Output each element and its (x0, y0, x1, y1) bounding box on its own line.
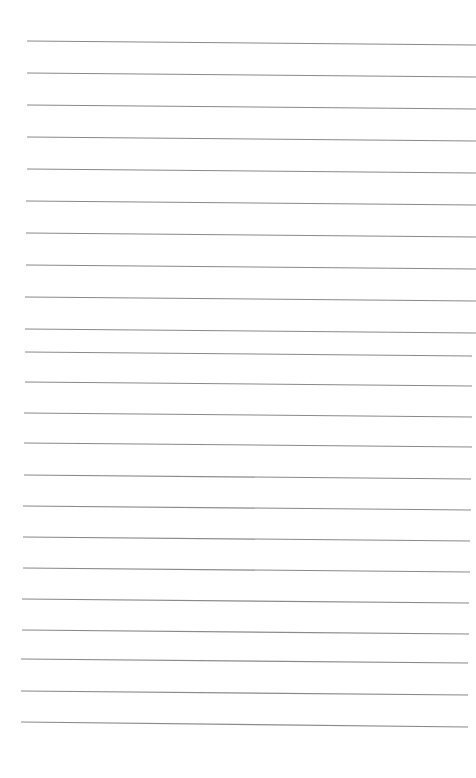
ruled-line (25, 352, 472, 356)
ruled-line (22, 630, 469, 634)
ruled-line (23, 568, 470, 572)
ruled-line (22, 599, 469, 603)
ruled-line (21, 691, 468, 695)
ruled-line (24, 443, 472, 447)
ruled-line (25, 329, 476, 333)
ruled-line (26, 201, 476, 205)
ruled-line (27, 137, 476, 141)
ruled-lines (0, 0, 476, 778)
ruled-line (24, 413, 472, 417)
ruled-line (27, 169, 476, 173)
ruled-line (24, 475, 471, 479)
ruled-line (25, 382, 472, 386)
ruled-line (23, 537, 470, 541)
ruled-line (21, 722, 468, 727)
lined-paper-page (0, 0, 476, 778)
ruled-line (27, 73, 476, 77)
ruled-line (23, 506, 471, 510)
ruled-line (25, 297, 476, 301)
ruled-line (26, 233, 476, 237)
ruled-line (27, 41, 476, 45)
ruled-line (26, 265, 476, 269)
ruled-line (21, 659, 468, 663)
ruled-line (27, 105, 476, 109)
